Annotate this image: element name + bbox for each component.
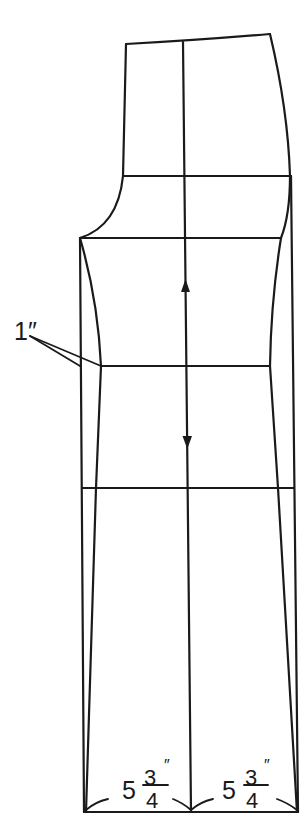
hem-right-whole: 5 [222, 776, 236, 804]
grainline [183, 42, 191, 812]
center-front-seam [80, 44, 126, 238]
hem-left-measurement: 5 3 4 ″ [122, 757, 170, 813]
hem-right-unit: ″ [264, 757, 270, 774]
waist-line [126, 34, 270, 44]
hem-tick-right-end [277, 799, 297, 810]
hem-tick-left-end [173, 799, 191, 810]
hem-left-denominator: 4 [146, 788, 158, 813]
hem-right-measurement: 5 3 4 ″ [222, 757, 270, 813]
leader-line-inner [30, 336, 101, 366]
arrow-up-icon [181, 279, 190, 292]
hem-right-numerator: 3 [245, 765, 257, 790]
outer-left-line [80, 238, 84, 812]
leader-line-outer [30, 336, 80, 366]
side-seam-hip-curve [270, 34, 290, 238]
hem-tick-right-start [191, 799, 213, 810]
pants-pattern-diagram: 1″ 5 3 4 ″ 5 3 4 ″ [0, 0, 308, 835]
hem-tick-left-start [86, 799, 108, 810]
arrow-down-icon [183, 436, 193, 449]
hem-left-whole: 5 [122, 776, 136, 804]
hem-right-denominator: 4 [246, 788, 258, 813]
side-offset-label: 1″ [14, 317, 37, 345]
hem-left-numerator: 3 [144, 765, 156, 790]
hem-left-unit: ″ [164, 757, 170, 774]
